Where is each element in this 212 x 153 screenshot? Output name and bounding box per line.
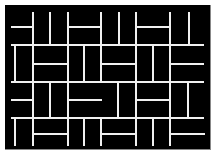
maze-lines	[0, 0, 212, 153]
